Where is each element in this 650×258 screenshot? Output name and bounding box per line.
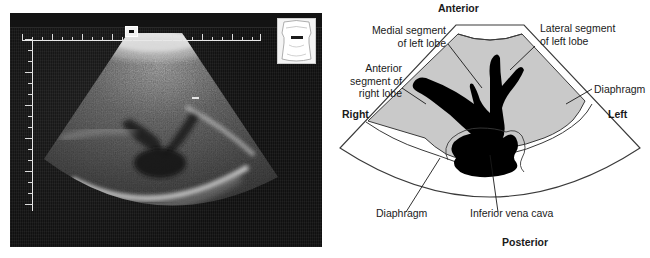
inferior-vena-cava	[451, 133, 518, 177]
label-lateral-segment: Lateral segment of left lobe	[540, 22, 615, 47]
label-medial-segment: Medial segment of left lobe	[348, 24, 446, 49]
transducer-position-marker	[125, 26, 138, 37]
label-inferior-vena-cava: Inferior vena cava	[470, 207, 553, 220]
depth-scale	[23, 39, 33, 211]
body-position-marker-icon	[277, 18, 316, 64]
ultrasound-image-panel	[10, 13, 322, 247]
label-diaphragm-right: Diaphragm	[376, 207, 427, 220]
orientation-right: Right	[342, 108, 369, 121]
ultrasound-header-bar	[10, 13, 322, 28]
orientation-left: Left	[608, 108, 627, 121]
orientation-anterior: Anterior	[438, 2, 479, 15]
liver-anatomy-diagram: Anterior Posterior Right Left Medial seg…	[330, 0, 650, 258]
orientation-posterior: Posterior	[502, 236, 548, 249]
ultrasound-liver-sector	[10, 27, 322, 247]
width-scale	[22, 31, 260, 41]
label-anterior-segment: Anterior segment of right lobe	[330, 62, 402, 100]
ultrasound-figure: Anterior Posterior Right Left Medial seg…	[0, 0, 650, 258]
caliper-tick	[192, 97, 199, 99]
label-diaphragm-left: Diaphragm	[594, 83, 645, 96]
